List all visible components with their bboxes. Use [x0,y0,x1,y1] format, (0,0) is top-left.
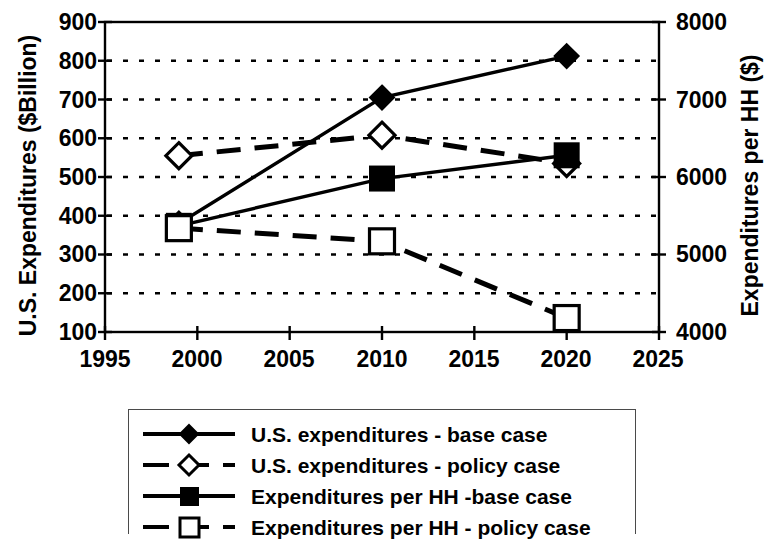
legend-swatch-1 [129,451,249,479]
legend-swatch-0 [129,420,249,448]
legend-label-1: U.S. expenditures - policy case [251,455,560,476]
series-2 [167,143,579,238]
legend-item-2[interactable]: Expenditures per HH -base case [129,482,635,510]
series-3 [166,216,579,331]
legend: U.S. expenditures - base case U.S. expen… [128,409,636,534]
legend-label-3: Expenditures per HH - policy case [251,517,591,538]
legend-swatch-3 [129,513,249,541]
legend-label-0: U.S. expenditures - base case [251,424,547,445]
legend-item-0[interactable]: U.S. expenditures - base case [129,420,635,448]
legend-label-2: Expenditures per HH -base case [251,486,572,507]
legend-item-1[interactable]: U.S. expenditures - policy case [129,451,635,479]
legend-swatch-2 [129,482,249,510]
data-series-group [166,44,580,330]
legend-item-3[interactable]: Expenditures per HH - policy case [129,513,635,541]
